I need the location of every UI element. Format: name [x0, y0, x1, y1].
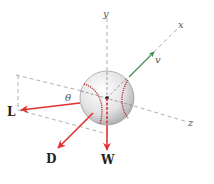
baseball-force-diagram: y x z v θ L D W — [0, 0, 214, 184]
lift-force-arrow — [21, 103, 80, 110]
theta-angle-label: θ — [65, 92, 71, 103]
velocity-arrow — [129, 52, 154, 77]
lift-force-label: L — [7, 105, 16, 119]
z-axis-label: z — [187, 117, 194, 128]
drag-force-arrow — [58, 113, 93, 148]
x-axis-line — [154, 28, 178, 52]
x-axis-label: x — [178, 19, 184, 30]
y-axis-label: y — [102, 8, 109, 19]
weight-force-label: W — [100, 153, 115, 167]
velocity-label: v — [155, 54, 161, 65]
z-axis-line — [134, 106, 188, 122]
projection-top-line — [16, 75, 86, 92]
drag-force-label: D — [46, 152, 56, 166]
